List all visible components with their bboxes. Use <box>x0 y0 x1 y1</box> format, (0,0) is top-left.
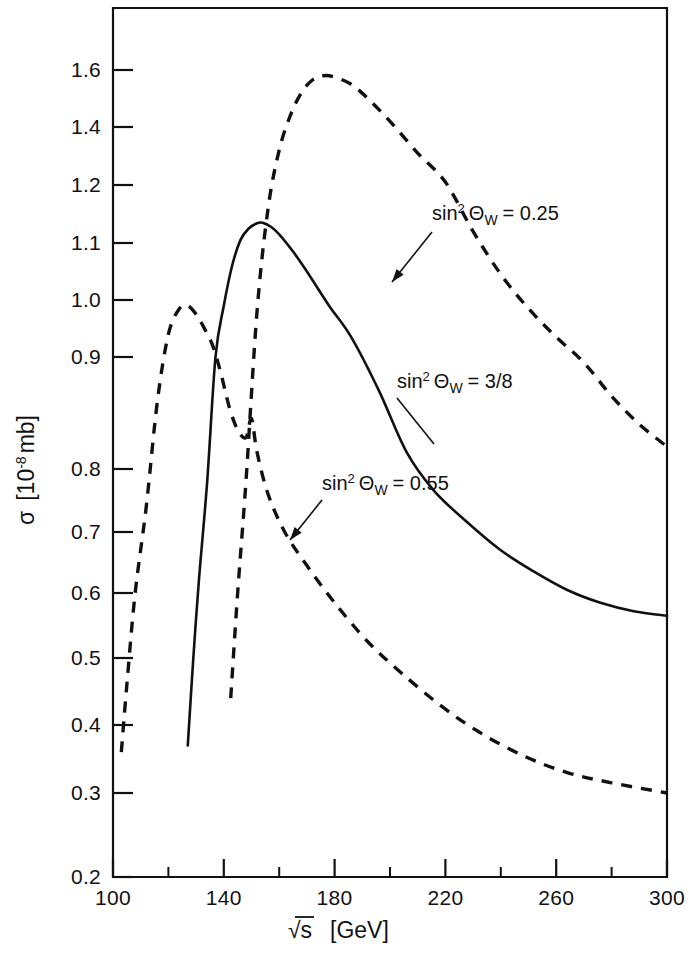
x-tick-label-100: 100 <box>95 886 131 909</box>
y-tick-label-1.0: 1.0 <box>71 288 101 311</box>
x-tick-label-220: 220 <box>427 886 463 909</box>
plot-frame <box>113 8 667 877</box>
y-tick-label-1.4: 1.4 <box>71 115 101 138</box>
y-tick-label-1.1: 1.1 <box>71 231 101 254</box>
x-tick-label-300: 300 <box>649 886 685 909</box>
figure-container: 0.20.30.40.50.60.70.80.91.01.11.21.41.6 … <box>0 0 699 957</box>
x-tick-label-180: 180 <box>317 886 353 909</box>
y-tick-label-0.7: 0.7 <box>71 520 101 543</box>
x-axis-title-unit: [GeV] <box>330 917 389 943</box>
axis-ticks <box>113 70 667 877</box>
y-tick-label-0.6: 0.6 <box>71 581 101 604</box>
annotation-label-ann-055: sin2ΘW= 0.55 <box>322 471 449 498</box>
y-tick-label-0.4: 0.4 <box>71 713 101 736</box>
cross-section-chart: 0.20.30.40.50.60.70.80.91.01.11.21.41.6 … <box>0 0 699 957</box>
annotation-label-ann-38: sin2ΘW= 3/8 <box>397 369 513 396</box>
plot-frame-rect <box>113 8 667 877</box>
curve-annotations: sin2ΘW= 0.25sin2ΘW= 3/8sin2ΘW= 0.55 <box>290 201 559 540</box>
y-tick-label-1.2: 1.2 <box>71 173 101 196</box>
x-tick-labels: 100140180220260300 <box>95 886 685 909</box>
y-tick-labels: 0.20.30.40.50.60.70.80.91.01.11.21.41.6 <box>71 58 101 888</box>
annotation-ann-38: sin2ΘW= 3/8 <box>397 369 513 444</box>
annotation-arrowhead-ann-025 <box>392 269 404 282</box>
y-tick-label-0.2: 0.2 <box>71 865 101 888</box>
y-tick-label-0.5: 0.5 <box>71 646 101 669</box>
x-tick-label-140: 140 <box>206 886 242 909</box>
y-tick-label-0.8: 0.8 <box>71 457 101 480</box>
data-curves <box>121 76 667 793</box>
x-axis-title-sqrt: √s <box>288 917 312 943</box>
annotation-leader-ann-38 <box>397 398 434 444</box>
y-tick-label-1.6: 1.6 <box>71 58 101 81</box>
annotation-ann-025: sin2ΘW= 0.25 <box>392 201 559 282</box>
x-tick-label-260: 260 <box>538 886 574 909</box>
x-axis-title: √s [GeV] <box>288 917 389 943</box>
y-tick-label-0.9: 0.9 <box>71 345 101 368</box>
curve-sin2thetaW_0.55 <box>121 305 667 793</box>
annotation-label-ann-025: sin2ΘW= 0.25 <box>432 201 559 228</box>
y-tick-label-0.3: 0.3 <box>71 781 101 804</box>
y-axis-title-text: σ[10-8mb] <box>13 415 39 525</box>
annotation-arrowhead-ann-055 <box>290 527 302 540</box>
y-axis-title: σ[10-8mb] <box>13 415 39 525</box>
annotation-ann-055: sin2ΘW= 0.55 <box>290 471 449 540</box>
